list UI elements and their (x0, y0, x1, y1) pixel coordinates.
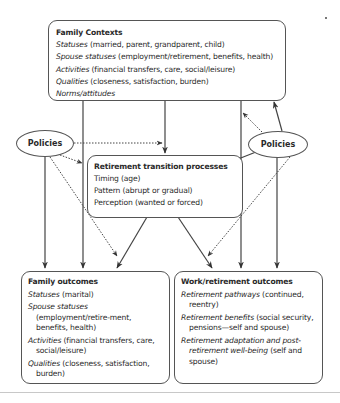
work-outcomes-title: Work/retirement outcomes (181, 277, 316, 288)
family-outcomes-row: Spouse statuses (employment/retire-ment,… (28, 302, 163, 334)
retirement-transition-box: Retirement transition processes Timing (… (87, 155, 243, 218)
work-outcomes-row: Retirement adaptation and post-retiremen… (181, 336, 316, 368)
retirement-transition-row: Perception (wanted or forced) (94, 197, 236, 209)
retirement-transition-row: Timing (age) (94, 173, 236, 185)
retirement-transition-row: Pattern (abrupt or gradual) (94, 185, 236, 197)
bottom-divider (0, 392, 340, 393)
policies-right-label: Policies (261, 140, 296, 149)
family-contexts-title: Family Contexts (56, 27, 278, 39)
policies-left-label: Policies (28, 139, 63, 148)
family-contexts-row: Norms/attitudes (56, 88, 278, 100)
stray-dot (325, 17, 327, 19)
family-contexts-row: Statuses (married, parent, grandparent, … (56, 39, 278, 51)
dotted-arrow-policies-left-to-transition (60, 155, 82, 163)
work-outcomes-row: Retirement benefits (social security, pe… (181, 313, 316, 334)
work-outcomes-box: Work/retirement outcomes Retirement path… (174, 271, 323, 384)
dotted-arrow-policies-right-to-context-line (243, 113, 262, 132)
family-contexts-row: Qualities (closeness, satisfaction, burd… (56, 76, 278, 88)
family-contexts-box: Family Contexts Statuses (married, paren… (48, 20, 286, 101)
family-outcomes-row: Activities (financial transfers, care, s… (28, 336, 163, 357)
arrow-policies-right-to-contexts (274, 102, 282, 131)
policies-left-node: Policies (16, 130, 74, 157)
family-outcomes-row: Statuses (marital) (28, 290, 163, 301)
retirement-transition-title: Retirement transition processes (94, 161, 236, 173)
arrow-transition-to-family-outcomes (117, 217, 147, 268)
family-outcomes-title: Family outcomes (28, 277, 163, 288)
arrow-transition-to-work-outcomes (178, 217, 212, 268)
work-outcomes-row: Retirement pathways (continued, reentry) (181, 290, 316, 311)
family-contexts-row: Activities (financial transfers, care, s… (56, 64, 278, 76)
family-outcomes-box: Family outcomes Statuses (marital) Spous… (21, 271, 170, 384)
policies-right-node: Policies (248, 131, 308, 158)
family-contexts-row: Spouse statuses (employment/retirement, … (56, 51, 278, 63)
family-outcomes-row: Qualities (closeness, satisfaction, burd… (28, 359, 163, 380)
